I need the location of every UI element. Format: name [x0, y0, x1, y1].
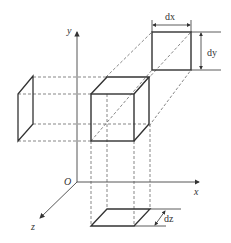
z-axis	[40, 182, 77, 218]
projection-lines	[18, 32, 191, 226]
yz-projection	[18, 76, 33, 141]
z-axis-label: z	[30, 221, 35, 232]
x-axis-label: x	[193, 186, 199, 197]
y-axis-label: y	[66, 25, 72, 36]
volume-element-diagram: y x z O dx	[0, 0, 231, 243]
xz-projection	[91, 209, 150, 226]
dz-label: dz	[164, 213, 174, 224]
dz-dimension	[134, 209, 181, 226]
xy-projection	[152, 32, 191, 70]
axes	[40, 32, 199, 218]
dy-label: dy	[207, 47, 217, 58]
dx-label: dx	[165, 11, 175, 22]
origin-label: O	[64, 176, 71, 187]
